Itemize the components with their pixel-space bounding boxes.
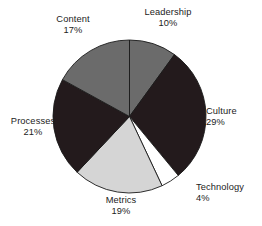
pie-label-metrics: Metrics 19% — [91, 195, 151, 218]
pie-chart: Leadership 10% Culture 29% Technology 4%… — [0, 0, 262, 226]
pie-label-leadership-name: Leadership — [131, 7, 205, 18]
pie-label-content-value: 17% — [42, 25, 104, 36]
pie-label-culture-name: Culture — [206, 106, 260, 117]
pie-label-leadership: Leadership 10% — [131, 7, 205, 30]
pie-label-metrics-value: 19% — [91, 206, 151, 217]
pie-label-content: Content 17% — [42, 14, 104, 37]
pie-slice-group — [53, 40, 206, 193]
pie-label-processes-value: 21% — [2, 127, 64, 138]
pie-label-technology-value: 4% — [196, 193, 260, 204]
pie-label-metrics-name: Metrics — [91, 195, 151, 206]
pie-label-processes-name: Processes — [2, 116, 64, 127]
pie-label-culture-value: 29% — [206, 117, 260, 128]
pie-label-culture: Culture 29% — [206, 106, 260, 129]
pie-label-content-name: Content — [42, 14, 104, 25]
pie-label-technology: Technology 4% — [196, 182, 260, 205]
pie-label-technology-name: Technology — [196, 182, 260, 193]
pie-label-processes: Processes 21% — [2, 116, 64, 139]
pie-label-leadership-value: 10% — [131, 18, 205, 29]
